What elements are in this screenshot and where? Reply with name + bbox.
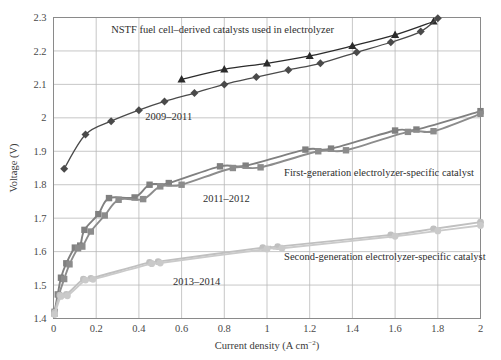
data-point-circle <box>434 227 441 234</box>
y-tick-label: 1.5 <box>33 280 46 291</box>
data-point-diamond <box>135 106 143 114</box>
x-tick-label: 0 <box>51 323 56 334</box>
x-tick-label: 0.6 <box>175 323 188 334</box>
x-tick-label: 0.2 <box>90 323 103 334</box>
data-point-square <box>178 182 184 188</box>
y-tick-label: 1.7 <box>33 213 46 224</box>
data-point-diamond <box>353 48 361 56</box>
data-point-circle <box>51 311 58 318</box>
data-point-square <box>146 182 152 188</box>
series-line <box>64 18 438 169</box>
data-point-diamond <box>60 165 68 173</box>
data-point-square <box>430 128 436 134</box>
data-point-square <box>405 129 411 135</box>
series-line <box>55 114 481 314</box>
data-point-square <box>102 212 108 218</box>
data-point-square <box>302 146 308 152</box>
data-point-square <box>315 148 321 154</box>
data-point-square <box>217 163 223 169</box>
data-point-diamond <box>252 73 260 81</box>
x-tick-label: 1.6 <box>389 323 402 334</box>
data-point-square <box>66 261 72 267</box>
data-point-diamond <box>284 66 292 74</box>
series-annotation-label: 2011–2012 <box>203 193 250 204</box>
data-point-square <box>140 196 146 202</box>
data-series <box>51 14 484 318</box>
x-tick-label: 1 <box>264 323 269 334</box>
series-annotation-label: Second-generation electrolyzer-specific … <box>284 251 486 262</box>
data-point-circle <box>157 260 164 267</box>
data-point-circle <box>58 293 65 300</box>
series-annotation-label: NSTF fuel cell–derived catalysts used in… <box>111 24 334 35</box>
y-tick-label: 1.6 <box>33 246 46 257</box>
x-tick-label: 1.2 <box>303 323 316 334</box>
x-axis-title: Current density (A cm−2) <box>215 339 320 352</box>
y-tick-label: 2.3 <box>33 12 46 23</box>
data-point-square <box>343 147 349 153</box>
x-axis-title-tail: ) <box>316 340 320 352</box>
y-tick-label: 2.1 <box>33 79 46 90</box>
data-point-circle <box>477 222 484 229</box>
series-square <box>51 108 483 315</box>
chart-svg: 1.41.51.61.71.81.922.12.22.3 00.20.40.60… <box>0 0 501 360</box>
data-point-square <box>106 195 112 201</box>
data-point-diamond <box>220 80 228 88</box>
data-point-diamond <box>316 59 324 67</box>
y-tick-labels: 1.41.51.61.71.81.922.12.22.3 <box>33 12 47 324</box>
data-point-square <box>392 127 398 133</box>
y-tick-label: 2.2 <box>33 46 46 57</box>
chart-annotations: NSTF fuel cell–derived catalysts used in… <box>111 24 486 288</box>
data-point-circle <box>264 246 271 253</box>
data-point-circle <box>392 233 399 240</box>
data-point-circle <box>90 276 97 283</box>
data-point-circle <box>82 277 89 284</box>
y-tick-label: 1.8 <box>33 179 46 190</box>
data-point-square <box>257 164 263 170</box>
y-tick-label: 1.9 <box>33 146 46 157</box>
data-point-circle <box>64 292 71 299</box>
y-axis-title: Voltage (V) <box>8 143 20 193</box>
series-square <box>51 111 483 317</box>
data-point-square <box>79 243 85 249</box>
data-point-square <box>477 111 483 117</box>
data-point-diamond <box>190 89 198 97</box>
data-point-diamond <box>417 28 425 36</box>
data-point-circle <box>148 260 155 267</box>
chart-container: 1.41.51.61.71.81.922.12.22.3 00.20.40.60… <box>0 0 501 360</box>
series-annotation-label: First-generation electrolyzer-specific c… <box>284 167 474 178</box>
data-point-square <box>88 228 94 234</box>
x-axis-title-main: Current density (A cm <box>215 340 309 352</box>
data-point-diamond <box>107 117 115 125</box>
data-point-square <box>61 276 67 282</box>
x-tick-label: 0.4 <box>132 323 146 334</box>
x-tick-label: 2 <box>478 323 483 334</box>
x-tick-labels: 00.20.40.60.811.21.41.61.82 <box>51 323 483 334</box>
y-tick-label: 1.4 <box>33 313 47 324</box>
data-point-diamond <box>387 38 395 46</box>
data-point-square <box>115 197 121 203</box>
data-point-square <box>95 211 101 217</box>
series-annotation-label: 2013–2014 <box>173 276 221 287</box>
data-point-diamond <box>161 97 169 105</box>
data-point-square <box>230 165 236 171</box>
series-line <box>55 222 481 312</box>
x-tick-label: 0.8 <box>218 323 231 334</box>
data-point-square <box>81 227 87 233</box>
series-circle <box>51 222 484 318</box>
data-point-square <box>157 183 163 189</box>
x-tick-label: 1.8 <box>431 323 444 334</box>
series-annotation-label: 2009–2011 <box>145 111 192 122</box>
x-tick-label: 1.4 <box>346 323 360 334</box>
y-tick-label: 2 <box>41 112 46 123</box>
series-line <box>55 111 481 312</box>
